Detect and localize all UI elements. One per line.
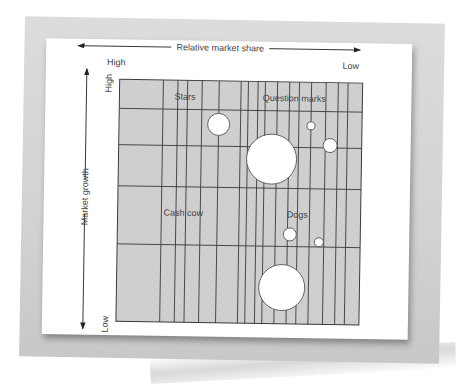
bubble [258, 264, 305, 311]
bcg-matrix-chart: Relative market share High Low Market gr… [42, 38, 413, 340]
y-axis-high-label: High [104, 74, 114, 93]
chart-paper: Relative market share High Low Market gr… [42, 38, 413, 340]
bubble [323, 138, 337, 152]
quadrant-label: Stars [174, 92, 196, 102]
quadrant-label: Cash cow [163, 208, 203, 219]
bubble [283, 228, 296, 241]
quadrant-label: Question marks [263, 93, 327, 104]
bubble [207, 113, 229, 135]
bubble [246, 134, 297, 185]
x-axis-title: Relative market share [176, 42, 264, 53]
bubble [314, 238, 323, 247]
x-axis-low-label: Low [342, 61, 359, 71]
y-axis-low-label: Low [100, 315, 110, 332]
bubble [307, 122, 315, 130]
plot-area: StarsQuestion marksCash cowDogs [116, 79, 363, 325]
x-axis-high-label: High [107, 57, 126, 67]
quadrant-label: Dogs [287, 209, 309, 219]
y-axis-title: Market growth [79, 168, 90, 225]
